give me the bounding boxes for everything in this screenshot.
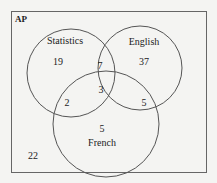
region-statistics-english: 7 — [98, 61, 103, 71]
region-english-french: 5 — [142, 98, 147, 108]
set-label-statistics: Statistics — [47, 36, 83, 46]
region-none: 22 — [28, 151, 38, 161]
region-statistics-only: 19 — [53, 57, 63, 67]
french-circle — [53, 71, 159, 177]
venn-diagram: AP Statistics English French 19 37 5 7 2… — [0, 0, 217, 183]
region-english-only: 37 — [139, 57, 149, 67]
universe-rectangle — [12, 12, 207, 173]
region-statistics-french: 2 — [65, 98, 70, 108]
set-label-english: English — [129, 37, 160, 47]
universe-label: AP — [15, 15, 27, 24]
region-french-only: 5 — [100, 124, 105, 134]
set-label-french: French — [88, 138, 116, 148]
region-all-three: 3 — [99, 85, 104, 95]
